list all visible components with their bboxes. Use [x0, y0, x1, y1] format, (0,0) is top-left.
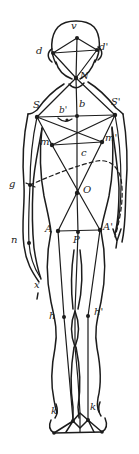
point-S [35, 115, 39, 119]
thigh-left-inner [72, 250, 74, 309]
proportion-diagram: v d d' N S S' b b' m m' c g O A A' P n x… [0, 0, 139, 454]
line-m-Aprime [52, 145, 100, 230]
line-mprime-A [58, 142, 102, 231]
point-h-prime [86, 314, 90, 318]
label-b-prime: b' [59, 106, 67, 115]
point-ankle-right [86, 418, 90, 422]
label-x: x [34, 280, 40, 290]
label-g: g [9, 179, 15, 189]
point-d [51, 51, 55, 55]
label-O: O [83, 185, 91, 195]
point-N [74, 76, 78, 80]
point-A [56, 229, 60, 233]
thigh-right-inner [78, 250, 82, 309]
label-m-prime: m' [105, 133, 117, 143]
label-d: d [36, 46, 42, 56]
foot-left-diagonal [54, 421, 73, 433]
line-N-S [37, 78, 76, 117]
point-base-right [100, 430, 104, 434]
figure-drawing [0, 0, 139, 454]
label-h-prime: h' [94, 307, 103, 317]
foot-right-diagonal [88, 420, 102, 432]
point-A-prime [98, 228, 102, 232]
label-k-prime: k' [90, 402, 99, 412]
label-k: k [51, 406, 57, 416]
label-v: v [71, 21, 77, 31]
point-O [75, 191, 79, 195]
point-b [75, 114, 79, 118]
heel-right-arc [102, 418, 106, 432]
point-n [27, 241, 31, 245]
label-n: n [11, 235, 17, 245]
label-S-prime: S' [111, 97, 121, 107]
label-A: A [45, 224, 52, 234]
point-h [62, 315, 66, 319]
label-S: S [33, 100, 40, 110]
point-S-prime [113, 113, 117, 117]
point-ankle-left [71, 419, 75, 423]
heel-left-arc [50, 420, 54, 433]
label-N: N [80, 71, 89, 81]
point-v [75, 36, 79, 40]
leg-left-outer [47, 232, 57, 413]
label-P: P [73, 235, 80, 245]
point-base-left [52, 431, 56, 435]
label-h: h [49, 311, 55, 321]
hand-left-tick [37, 293, 38, 299]
point-g [28, 183, 32, 187]
label-b: b [79, 99, 85, 109]
label-c: c [81, 148, 87, 158]
point-b-prime [65, 118, 68, 121]
leg-right-outer [96, 231, 105, 412]
arm-right-outer [122, 114, 127, 242]
feet-baseline [54, 432, 102, 433]
leg-left-axis [58, 231, 73, 420]
bprime-arc [58, 118, 72, 121]
label-m: m [40, 137, 49, 147]
point-m [50, 143, 54, 147]
line-N-Sprime [76, 78, 115, 115]
label-A-prime: A' [103, 222, 113, 232]
label-d-prime: d' [99, 42, 108, 52]
head-diamond [53, 38, 97, 78]
point-m-prime [100, 140, 104, 144]
leg-right-axis [88, 230, 100, 419]
ankle-right-hook [99, 402, 101, 416]
